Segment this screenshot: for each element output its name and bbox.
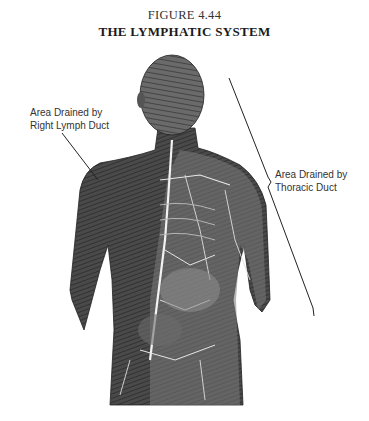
- label-right-lymph-line2: Right Lymph Duct: [30, 119, 109, 132]
- label-thoracic-line2: Thoracic Duct: [275, 181, 347, 194]
- label-right-lymph-line1: Area Drained by: [30, 106, 109, 119]
- right-lymph-leader-line: [62, 133, 98, 180]
- lymphatic-illustration: [0, 0, 369, 421]
- label-thoracic-line1: Area Drained by: [275, 168, 347, 181]
- label-thoracic-duct: Area Drained by Thoracic Duct: [275, 168, 347, 194]
- label-right-lymph-duct: Area Drained by Right Lymph Duct: [30, 106, 109, 132]
